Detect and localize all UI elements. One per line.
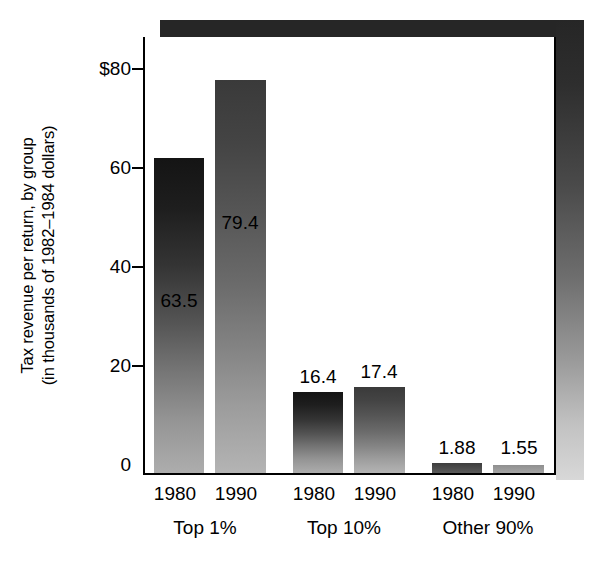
plot-area: 63.5 79.4 16.4 17.4 1.88 1.55 [145, 37, 554, 473]
y-axis-tick-labels: $80 60 40 20 0 [63, 37, 131, 473]
y-tick-mark-20 [132, 365, 145, 367]
y-tick-label-80: $80 [99, 59, 131, 78]
bar-value-top10pct-1990: 17.4 [339, 362, 419, 381]
y-tick-mark-80 [132, 68, 145, 70]
y-tick-mark-40 [132, 266, 145, 268]
group-label-top10pct: Top 10% [299, 518, 389, 537]
bar-top1pct-1980[interactable] [154, 158, 204, 473]
y-tick-mark-60 [132, 167, 145, 169]
plot-shadow-top [160, 20, 584, 37]
group-label-top1pct: Top 1% [160, 518, 250, 537]
x-tick-label-other90pct-1990: 1990 [469, 484, 559, 503]
bar-value-top1pct-1980: 63.5 [139, 291, 219, 310]
group-label-other90pct: Other 90% [438, 518, 538, 537]
bar-top10pct-1990[interactable] [354, 387, 405, 473]
y-axis-title-line-1: Tax revenue per return, by group [18, 125, 39, 385]
bar-top10pct-1980[interactable] [293, 392, 343, 473]
y-tick-label-20: 20 [110, 356, 131, 375]
x-tick-label-top1pct-1990: 1990 [191, 484, 281, 503]
bar-chart-figure: Tax revenue per return, by group (in tho… [0, 0, 601, 565]
plot-shadow-right [556, 20, 584, 480]
bar-value-other90pct-1990: 1.55 [479, 438, 559, 457]
y-axis-title-line-2: (in thousands of 1982–1984 dollars) [39, 125, 60, 385]
bar-value-top1pct-1990: 79.4 [200, 213, 280, 232]
y-tick-label-0: 0 [120, 455, 131, 474]
y-tick-label-40: 40 [110, 257, 131, 276]
bar-top1pct-1990[interactable] [215, 80, 266, 473]
bar-other90pct-1990[interactable] [493, 465, 544, 473]
y-tick-label-60: 60 [110, 158, 131, 177]
bar-other90pct-1980[interactable] [432, 463, 482, 473]
x-tick-label-top10pct-1990: 1990 [330, 484, 420, 503]
